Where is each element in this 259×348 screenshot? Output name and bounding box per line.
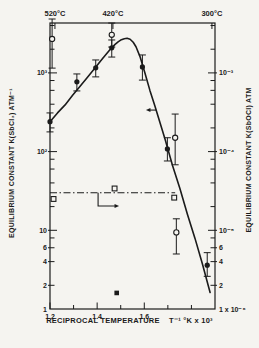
data-point-open-square <box>172 195 177 200</box>
left-tick-label: 4 <box>43 258 47 265</box>
right-tick-label: 10⁻⁵ <box>219 227 234 234</box>
data-point-filled-circle <box>205 263 210 268</box>
top-tick-label: 420°C <box>102 9 124 18</box>
equilibrium-constant-chart: 520°C420°C300°C1.21.41.610³10²10642110⁻³… <box>0 0 259 348</box>
data-point-filled-circle <box>93 65 98 70</box>
data-point-open-square <box>112 186 117 191</box>
data-point-open-circle <box>173 135 178 140</box>
top-tick-label: 520°C <box>44 9 66 18</box>
left-tick-label: 2 <box>43 282 47 289</box>
series-open-square <box>51 186 176 201</box>
plot-frame <box>50 23 215 309</box>
left-tick-label: 10³ <box>37 69 48 76</box>
right-axis: 10⁻³10⁻⁴10⁻⁵6421 x 10⁻⁶ <box>208 26 246 313</box>
left-tick-label: 10² <box>37 148 48 155</box>
data-point-filled-circle <box>47 119 52 124</box>
arrow-shaft <box>98 193 116 206</box>
right-tick-label: 2 <box>219 282 223 289</box>
left-tick-label: 10 <box>39 227 47 234</box>
figure: 520°C420°C300°C1.21.41.610³10²10642110⁻³… <box>0 0 259 348</box>
top-axis: 520°C420°C300°C <box>44 9 222 29</box>
data-point-open-circle <box>109 32 114 37</box>
arrow-head <box>146 108 151 112</box>
fit-curve <box>50 38 210 292</box>
right-axis-arrow <box>98 193 119 208</box>
x-axis-title: RECIPROCAL TEMPERATURE T⁻¹ °K x 10³ <box>0 316 259 325</box>
right-tick-label: 1 x 10⁻⁶ <box>219 306 246 313</box>
arrow-head <box>115 204 120 208</box>
data-point-open-square <box>51 197 56 202</box>
data-point-filled-circle <box>165 146 170 151</box>
right-tick-label: 10⁻³ <box>219 69 234 76</box>
top-tick-label: 300°C <box>201 9 223 18</box>
left-axis-title: EQUILIBRIUM CONSTANT K(SbCl₃) ATM⁻¹ <box>8 88 16 238</box>
left-tick-label: 6 <box>43 244 47 251</box>
series-open-circle <box>49 19 180 254</box>
left-tick-label: 1 <box>43 306 47 313</box>
right-axis-title: EQUILIBRIUM CONSTANT K(SbOCl) ATM <box>245 87 252 232</box>
right-tick-label: 10⁻⁴ <box>219 148 235 155</box>
data-point-filled-square <box>114 291 119 296</box>
data-point-filled-circle <box>140 64 145 69</box>
series-filled-circle <box>47 40 211 276</box>
right-tick-label: 4 <box>219 258 223 265</box>
data-point-filled-circle <box>74 79 79 84</box>
data-point-open-circle <box>174 230 179 235</box>
right-tick-label: 6 <box>219 244 223 251</box>
series-filled-square <box>114 291 119 296</box>
left-axis-arrow <box>146 108 156 112</box>
data-point-open-circle <box>50 36 55 41</box>
